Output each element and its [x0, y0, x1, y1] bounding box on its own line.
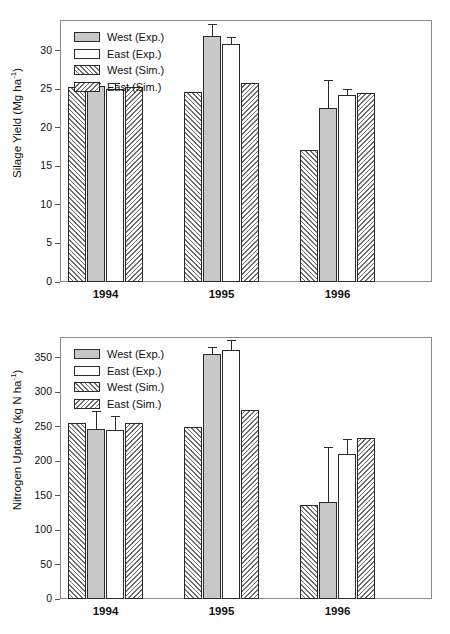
bar	[338, 454, 356, 599]
error-bar	[328, 80, 329, 108]
x-axis-labels-nitrogen-uptake: 199419951996	[60, 605, 432, 627]
panel-silage-yield: 051015202530 Silage Yield (Mg ha-1) 1994…	[0, 0, 450, 317]
legend-label: West (Sim.)	[107, 381, 164, 393]
y-axis-label-exponent: -1	[9, 373, 18, 380]
y-tick-label: 30	[40, 44, 52, 57]
y-tick-label: 200	[34, 454, 52, 467]
error-bar-cap	[227, 37, 236, 38]
legend-label: West (Exp.)	[107, 31, 164, 43]
error-bar-cap	[324, 80, 333, 81]
x-tick-label: 1994	[93, 288, 119, 300]
error-bar-cap	[343, 89, 352, 90]
y-tick-label: 15	[40, 159, 52, 172]
y-tick-label: 350	[34, 351, 52, 364]
panel-nitrogen-uptake: 050100150200250300350 Nitrogen Uptake (k…	[0, 317, 450, 634]
legend-item: West (Exp.)	[74, 347, 164, 361]
bar	[68, 423, 86, 600]
legend-item: West (Exp.)	[74, 30, 164, 44]
error-bar	[347, 439, 348, 453]
bar	[203, 354, 221, 599]
legend-swatch	[74, 49, 100, 59]
x-tick-label: 1996	[325, 288, 351, 300]
bar	[87, 86, 105, 282]
bar	[222, 44, 240, 282]
bar	[106, 89, 124, 282]
bar	[319, 108, 337, 282]
legend-swatch	[74, 65, 100, 75]
error-bar-cap	[324, 447, 333, 448]
bar	[357, 438, 375, 599]
y-axis-label-silage-yield: Silage Yield (Mg ha-1)	[9, 23, 23, 223]
bar	[300, 505, 318, 599]
error-bar	[231, 340, 232, 350]
legend-swatch	[74, 366, 100, 376]
bar	[125, 87, 143, 282]
error-bar-cap	[227, 340, 236, 341]
legend-label: East (Sim.)	[107, 81, 161, 93]
y-tick-label: 0	[46, 275, 52, 288]
legend-swatch	[74, 399, 100, 409]
bar	[357, 93, 375, 282]
legend-item: West (Sim.)	[74, 63, 164, 77]
y-tick-label: 250	[34, 420, 52, 433]
legend-label: East (Exp.)	[107, 365, 161, 377]
bar	[222, 350, 240, 599]
legend-item: East (Exp.)	[74, 364, 164, 378]
error-bar	[212, 24, 213, 36]
legend-swatch	[74, 82, 100, 92]
bar	[203, 36, 221, 282]
legend-swatch	[74, 32, 100, 42]
y-tick-label: 25	[40, 82, 52, 95]
legend-item: East (Sim.)	[74, 397, 164, 411]
legend-label: West (Sim.)	[107, 64, 164, 76]
legend-label: West (Exp.)	[107, 348, 164, 360]
y-tick-label: 150	[34, 489, 52, 502]
y-tick-label: 10	[40, 198, 52, 211]
error-bar	[115, 416, 116, 430]
y-tick-label: 0	[46, 592, 52, 605]
legend-item: East (Sim.)	[74, 80, 164, 94]
bar	[106, 430, 124, 599]
bar	[241, 83, 259, 282]
error-bar-cap	[208, 24, 217, 25]
bar	[125, 423, 143, 600]
bar	[241, 410, 259, 599]
error-bar	[328, 447, 329, 502]
legend-nitrogen-uptake: West (Exp.)East (Exp.)West (Sim.)East (S…	[72, 345, 168, 415]
bar	[87, 429, 105, 599]
bar	[68, 87, 86, 282]
y-axis-label-exponent: -1	[9, 72, 18, 79]
x-tick-label: 1996	[325, 605, 351, 617]
legend-label: East (Exp.)	[107, 48, 161, 60]
bar	[338, 95, 356, 282]
x-tick-label: 1995	[209, 605, 235, 617]
figure-two-panel-bar-charts: 051015202530 Silage Yield (Mg ha-1) 1994…	[0, 0, 450, 634]
y-tick-label: 5	[46, 236, 52, 249]
bar	[184, 427, 202, 599]
error-bar-cap	[343, 439, 352, 440]
y-tick-label: 300	[34, 385, 52, 398]
error-bar-cap	[111, 416, 120, 417]
y-tick-label: 20	[40, 121, 52, 134]
legend-item: West (Sim.)	[74, 380, 164, 394]
x-tick-label: 1994	[93, 605, 119, 617]
legend-label: East (Sim.)	[107, 398, 161, 410]
bar	[184, 92, 202, 282]
y-tick-label: 50	[40, 558, 52, 571]
legend-item: East (Exp.)	[74, 47, 164, 61]
x-tick-label: 1995	[209, 288, 235, 300]
legend-swatch	[74, 382, 100, 392]
legend-silage-yield: West (Exp.)East (Exp.)West (Sim.)East (S…	[72, 28, 168, 98]
y-tick-label: 100	[34, 523, 52, 536]
bar	[300, 150, 318, 282]
x-axis-labels-silage-yield: 199419951996	[60, 288, 432, 310]
bar	[319, 502, 337, 599]
error-bar	[231, 37, 232, 44]
legend-swatch	[74, 349, 100, 359]
y-axis-label-nitrogen-uptake: Nitrogen Uptake (kg N ha-1)	[9, 340, 23, 540]
error-bar-cap	[208, 347, 217, 348]
